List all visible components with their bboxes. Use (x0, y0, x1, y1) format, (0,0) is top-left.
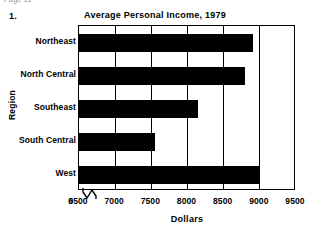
chart-title: Average Personal Income, 1979 (84, 10, 226, 20)
x-tick-label-7500: 7500 (141, 196, 160, 206)
x-tick-label-9500: 9500 (285, 196, 304, 206)
bar-row (79, 100, 296, 118)
y-tick-label-southeast: Southeast (0, 102, 76, 112)
chart-figure: Page 11 1. Average Personal Income, 1979… (0, 0, 312, 229)
bar-west (79, 166, 260, 184)
bar-southeast (79, 100, 198, 118)
x-tick-label-9000: 9000 (249, 196, 268, 206)
bar-northeast (79, 34, 253, 52)
bar-row (79, 133, 296, 151)
x-tick-label-8500: 8500 (213, 196, 232, 206)
plot-area (78, 25, 295, 190)
y-axis-tick-labels: NortheastNorth CentralSoutheastSouth Cen… (0, 25, 76, 190)
bar-row (79, 34, 296, 52)
bar-south-central (79, 133, 155, 151)
x-tick-label-6500: 6500 (68, 196, 87, 206)
x-tick-label-8000: 8000 (177, 196, 196, 206)
x-axis-title: Dollars (78, 214, 296, 224)
y-tick-label-west: West (0, 168, 76, 178)
y-tick-label-south-central: South Central (0, 135, 76, 145)
bar-row (79, 166, 296, 184)
y-tick-label-north-central: North Central (0, 69, 76, 79)
plot-inner (79, 26, 294, 189)
x-axis-tick-labels: 06500700075008000850090009500 (0, 196, 312, 210)
bar-row (79, 67, 296, 85)
bar-north-central (79, 67, 245, 85)
page-header-fragment: Page 11 (4, 0, 32, 3)
y-tick-label-northeast: Northeast (0, 36, 76, 46)
item-number: 1. (9, 11, 17, 21)
x-tick-label-7000: 7000 (105, 196, 124, 206)
